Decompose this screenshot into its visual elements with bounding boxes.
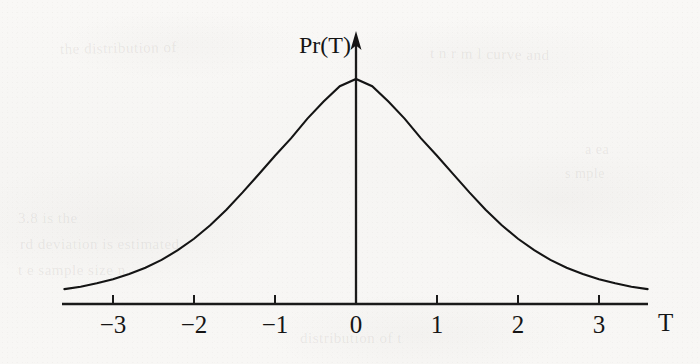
y-axis-label: Pr(T) (299, 33, 351, 57)
x-tick-label-0: −3 (93, 312, 133, 337)
x-tick-label-1: −2 (174, 312, 214, 337)
x-tick-label-5: 2 (498, 312, 538, 337)
x-axis-ticks (113, 295, 599, 304)
x-tick-label-2: −1 (255, 312, 295, 337)
x-axis-label: T (658, 310, 673, 335)
x-tick-label-4: 1 (417, 312, 457, 337)
x-tick-label-3: 0 (336, 312, 376, 337)
x-tick-label-6: 3 (579, 312, 619, 337)
scanned-figure-page: the distribution oft n r m l curve anda … (0, 0, 700, 364)
